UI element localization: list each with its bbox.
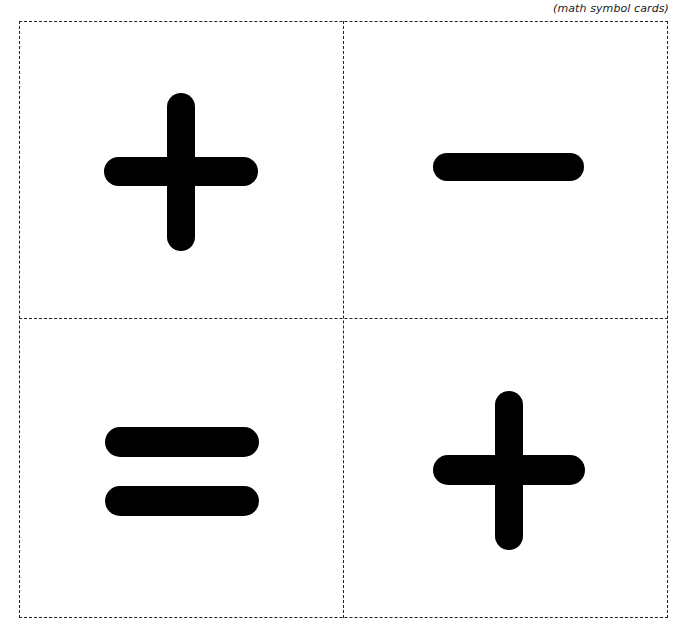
minus-bar xyxy=(433,153,584,181)
caption: (math symbol cards) xyxy=(553,2,669,15)
card-equals-bottom-left xyxy=(19,318,343,617)
plus-horizontal-bar xyxy=(433,455,585,485)
plus-horizontal-bar xyxy=(104,157,258,186)
card-plus-top-left xyxy=(19,21,343,318)
equals-bottom-bar xyxy=(105,486,259,516)
equals-top-bar xyxy=(105,427,259,457)
card-plus-bottom-right xyxy=(343,318,667,617)
cut-line-right xyxy=(667,21,668,618)
card-minus-top-right xyxy=(343,21,667,318)
